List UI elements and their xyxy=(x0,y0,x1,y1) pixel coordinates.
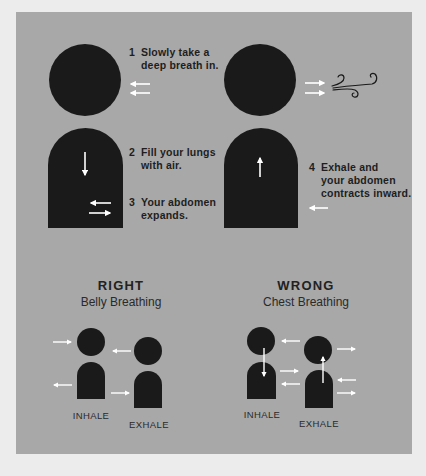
step-1: 1 Slowly take a deep breath in. xyxy=(129,46,219,72)
right-heading: RIGHT Belly Breathing xyxy=(51,278,191,310)
right-subtitle: Belly Breathing xyxy=(51,294,191,310)
step-number: 3 xyxy=(129,196,141,222)
inhale-body-figure xyxy=(48,128,123,228)
inhale-head-figure xyxy=(49,44,121,116)
right-inhale-label: INHALE xyxy=(61,410,121,421)
step-number: 1 xyxy=(129,46,141,72)
exhale-body-figure xyxy=(224,128,298,228)
step-number: 4 xyxy=(309,161,321,200)
exhale-air-arrows-icon xyxy=(305,83,324,93)
right-exhale-label: EXHALE xyxy=(119,419,179,430)
wind-swirl-icon xyxy=(332,73,377,97)
step-number: 2 xyxy=(129,146,141,172)
wrong-subtitle: Chest Breathing xyxy=(236,294,376,310)
right-inhale-figure xyxy=(77,328,105,399)
step-text: Your abdomen expands. xyxy=(141,196,216,222)
wrong-inhale-label: INHALE xyxy=(232,409,292,420)
right-title: RIGHT xyxy=(51,278,191,294)
wrong-exhale-label: EXHALE xyxy=(289,418,349,429)
wrong-title: WRONG xyxy=(236,278,376,294)
step-3: 3 Your abdomen expands. xyxy=(129,196,216,222)
wrong-exhale-figure xyxy=(304,336,333,408)
wrong-inhale-figure xyxy=(247,327,276,399)
wrong-heading: WRONG Chest Breathing xyxy=(236,278,376,310)
step-2: 2 Fill your lungs with air. xyxy=(129,146,216,172)
step-4: 4 Exhale and your abdomen contracts inwa… xyxy=(309,161,411,200)
right-exhale-figure xyxy=(134,337,162,408)
inhale-air-arrows-icon xyxy=(131,84,150,93)
step-text: Fill your lungs with air. xyxy=(141,146,216,172)
exhale-head-figure xyxy=(224,44,296,116)
step-text: Slowly take a deep breath in. xyxy=(141,46,219,72)
step-text: Exhale and your abdomen contracts inward… xyxy=(321,161,411,200)
